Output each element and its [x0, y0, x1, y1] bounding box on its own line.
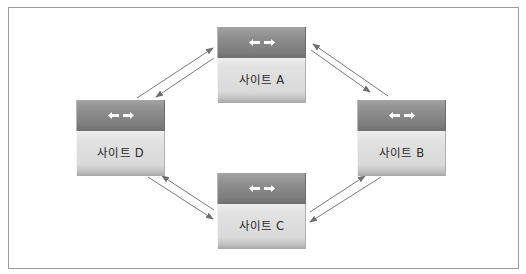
- node-header: [76, 100, 165, 131]
- edge-d-a: [137, 48, 214, 98]
- site-label: 사이트 C: [239, 217, 285, 233]
- site-label: 사이트 B: [379, 144, 425, 160]
- node-header: [217, 27, 306, 58]
- node-body: 사이트 B: [357, 131, 446, 176]
- node-header: [357, 100, 446, 131]
- bidirectional-arrows-icon: [108, 112, 134, 119]
- edge-a-b: [311, 44, 388, 96]
- site-label: 사이트 D: [97, 144, 144, 160]
- site-node-d[interactable]: 사이트 D: [76, 100, 165, 176]
- site-label: 사이트 A: [239, 71, 285, 87]
- node-body: 사이트 A: [217, 58, 306, 103]
- site-node-a[interactable]: 사이트 A: [217, 27, 306, 103]
- site-node-b[interactable]: 사이트 B: [357, 100, 446, 176]
- node-body: 사이트 C: [217, 204, 306, 249]
- bidirectional-arrows-icon: [389, 112, 415, 119]
- bidirectional-arrows-icon: [249, 39, 275, 46]
- node-header: [217, 173, 306, 204]
- edge-d-c: [148, 176, 214, 219]
- node-body: 사이트 D: [76, 131, 165, 176]
- bidirectional-arrows-icon: [249, 185, 275, 192]
- site-node-c[interactable]: 사이트 C: [217, 173, 306, 249]
- edge-c-b: [310, 176, 381, 222]
